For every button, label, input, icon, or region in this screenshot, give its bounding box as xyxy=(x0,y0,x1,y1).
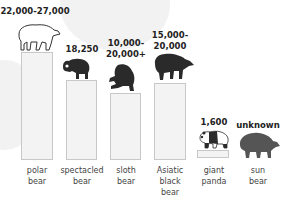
category-label-polar-bear: polar bear xyxy=(12,165,62,187)
value-label-polar-bear: 22,000-27,000 xyxy=(0,6,70,17)
value-label-sun-bear: unknown xyxy=(232,120,284,131)
giant-panda-icon xyxy=(197,129,231,149)
bar-giant-panda xyxy=(197,150,229,158)
sloth-bear-icon xyxy=(108,62,138,92)
asiatic-black-bear-icon xyxy=(153,52,195,81)
category-label-sun-bear: sun bear xyxy=(232,165,284,187)
bar-spectacled-bear xyxy=(66,80,97,160)
spectacled-bear-icon xyxy=(61,56,91,80)
bar-sloth-bear xyxy=(110,93,141,160)
bar-polar-bear xyxy=(21,52,53,160)
value-label-asiatic-black-bear: 15,000- 20,000 xyxy=(144,30,196,52)
sun-bear-icon xyxy=(238,131,282,159)
bar-asiatic-black-bear xyxy=(154,83,186,160)
